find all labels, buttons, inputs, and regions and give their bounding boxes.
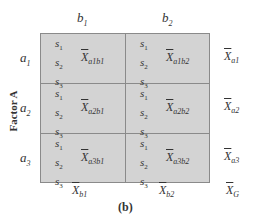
subject-list: s1s2s3 <box>140 136 148 194</box>
subject-list: s1s2s3 <box>55 136 63 194</box>
column-header-b1: b1 <box>77 10 88 28</box>
row-header-a2: a2 <box>20 100 31 118</box>
design-grid: s1s2s3 Xa1b1 s1s2s3 Xa1b2 s1s2s3 Xa2b1 s… <box>40 33 210 183</box>
row-header-a1: a1 <box>20 50 31 68</box>
column-marginal-b2: Xb2 <box>159 183 174 199</box>
cell-a2-b1: s1s2s3 Xa2b1 <box>41 84 125 133</box>
grand-mean: XG <box>226 183 239 199</box>
cell-mean: Xa1b1 <box>81 50 104 66</box>
cell-a3-b1: s1s2s3 Xa3b1 <box>41 134 125 183</box>
factor-a-label: Factor A <box>7 90 19 131</box>
cell-a2-b2: s1s2s3 Xa2b2 <box>126 84 210 133</box>
row-header-a3: a3 <box>20 150 31 168</box>
row-marginal-a1: Xa1 <box>224 49 239 65</box>
cell-mean: Xa2b2 <box>166 100 189 116</box>
cell-a3-b2: s1s2s3 Xa3b2 <box>126 134 210 183</box>
figure-caption: (b) <box>118 200 133 215</box>
row-marginal-a3: Xa3 <box>224 149 239 165</box>
cell-mean: Xa3b1 <box>81 150 104 166</box>
row-marginal-a2: Xa2 <box>224 99 239 115</box>
cell-mean: Xa2b1 <box>81 100 104 116</box>
cell-mean: Xa1b2 <box>166 50 189 66</box>
cell-a1-b1: s1s2s3 Xa1b1 <box>41 34 125 83</box>
cell-mean: Xa3b2 <box>166 150 189 166</box>
column-marginal-b1: Xb1 <box>72 183 87 199</box>
column-header-b2: b2 <box>162 10 173 28</box>
cell-a1-b2: s1s2s3 Xa1b2 <box>126 34 210 83</box>
